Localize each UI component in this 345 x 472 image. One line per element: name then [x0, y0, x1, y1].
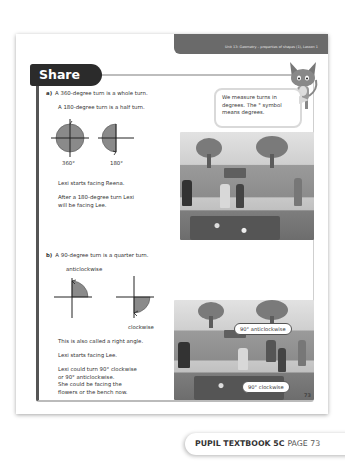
unit-banner: Unit 13: Geometry – properties of shapes… — [174, 34, 328, 54]
full-turn-diagram-icon — [50, 118, 90, 158]
person-reena — [178, 342, 190, 368]
part-a-text2: After a 180-degree turn Lexi will be fac… — [58, 194, 134, 209]
part-a-text2-line1: After a 180-degree turn Lexi — [58, 194, 134, 202]
part-b-text3: Lexi could turn 90° clockwise or 90° ant… — [58, 366, 137, 396]
part-b-text3-line1: Lexi could turn 90° clockwise — [58, 366, 137, 374]
flower-bed — [190, 216, 280, 240]
part-b-line1: A 90-degree turn is a quarter turn. — [55, 252, 148, 258]
part-b-text1: This is also called a right angle. — [58, 338, 143, 346]
page-reference: PAGE 73 — [287, 439, 320, 448]
person-reena — [182, 180, 192, 206]
tree-trunk — [270, 154, 274, 168]
part-a-text1: Lexi starts facing Reena. — [58, 180, 124, 188]
callout-clockwise: 90° clockwise — [242, 381, 290, 393]
tree-trunk — [209, 316, 213, 328]
part-a-text2-line2: will be facing Lee. — [58, 202, 134, 210]
person — [278, 348, 286, 372]
part-a-line1: A 360-degree turn is a whole turn. — [55, 90, 148, 96]
person-lexi — [238, 348, 248, 370]
diagram-label-clockwise: clockwise — [128, 324, 154, 332]
diagram-label-360: 360° — [62, 160, 75, 168]
person-lee — [298, 340, 306, 366]
bench — [224, 168, 246, 178]
person-lee — [294, 178, 302, 206]
part-a-label: a) — [46, 90, 52, 96]
part-b-text3-line3: She could be facing the — [58, 381, 137, 389]
diagram-label-180: 180° — [110, 160, 123, 168]
callout-anticlockwise: 90° anticlockwise — [234, 323, 292, 335]
speech-line: degrees. The ° symbol — [222, 102, 294, 110]
speech-line: We measure turns in — [222, 94, 294, 102]
part-b-text3-line2: or 90° anticlockwise. — [58, 374, 137, 382]
half-turn-diagram-icon — [96, 118, 136, 158]
speech-bubble: We measure turns in degrees. The ° symbo… — [214, 88, 302, 128]
person — [236, 184, 244, 208]
part-a-heading: a)A 360-degree turn is a whole turn. — [46, 90, 148, 98]
clockwise-quarter-turn-icon — [114, 274, 160, 320]
part-b-heading: b)A 90-degree turn is a quarter turn. — [46, 252, 148, 260]
part-b-label: b) — [46, 252, 52, 258]
diagram-label-anticlockwise: anticlockwise — [66, 266, 102, 274]
part-a-line2: A 180-degree turn is a half turn. — [58, 104, 145, 112]
person — [266, 340, 276, 362]
tree-trunk — [207, 154, 211, 168]
park-illustration-a — [180, 132, 314, 240]
part-b-text2: Lexi starts facing Lee. — [58, 352, 117, 360]
speech-line: means degrees. — [222, 109, 294, 117]
textbook-page: Unit 13: Geometry – properties of shapes… — [16, 34, 328, 414]
page-number: 73 — [304, 392, 311, 398]
textbook-reference: PUPIL TEXTBOOK 5CPAGE 73 — [185, 433, 345, 455]
section-title: Share — [30, 64, 102, 86]
part-b-text3-line4: flowers or the bench now. — [58, 389, 137, 397]
anticlockwise-quarter-turn-icon — [52, 274, 98, 320]
book-title: PUPIL TEXTBOOK 5C — [195, 439, 284, 448]
person-lexi — [220, 184, 230, 208]
park-illustration-b: 90° anticlockwise 90° clockwise — [174, 300, 314, 400]
